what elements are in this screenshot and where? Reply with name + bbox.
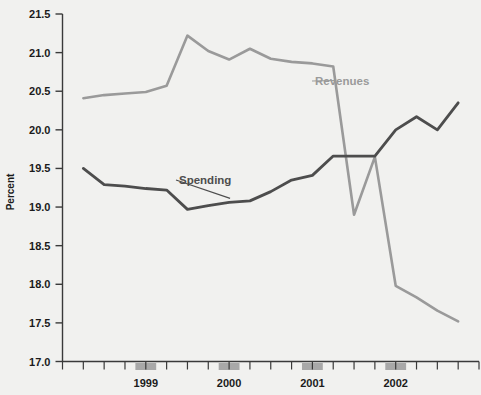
y-axis-tick-label: 19.0	[29, 201, 50, 213]
revenues-series-label: Revenues	[315, 75, 369, 87]
y-axis-tick-label: 17.5	[29, 317, 50, 329]
x-axis-tick-label: 2002	[383, 377, 407, 389]
y-axis-tick-label: 18.0	[29, 278, 50, 290]
y-axis-tick-label: 20.0	[29, 124, 50, 136]
y-axis-tick-label: 17.0	[29, 356, 50, 368]
y-axis-tick-label: 19.5	[29, 162, 50, 174]
x-axis-ticks	[63, 362, 480, 370]
y-axis-title: Percent	[5, 173, 16, 210]
chart-background	[0, 0, 481, 395]
chart-canvas: 21.521.020.520.019.519.018.518.017.517.0…	[0, 0, 481, 395]
chart-figure: 21.521.020.520.019.519.018.518.017.517.0…	[0, 0, 481, 395]
x-axis-tick-label: 1999	[134, 377, 158, 389]
y-axis-tick-label: 21.5	[29, 8, 50, 20]
x-axis-tick-label: 2000	[217, 377, 241, 389]
x-axis-tick-label: 2001	[300, 377, 324, 389]
spending-series-label: Spending	[179, 174, 231, 186]
y-axis-tick-label: 21.0	[29, 47, 50, 59]
y-axis-tick-label: 20.5	[29, 85, 50, 97]
y-axis-tick-label: 18.5	[29, 240, 50, 252]
